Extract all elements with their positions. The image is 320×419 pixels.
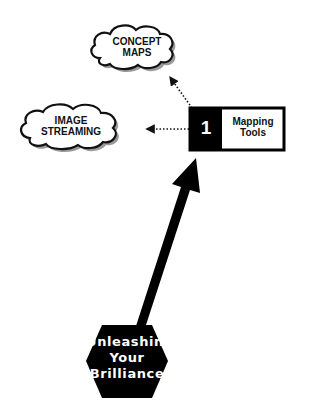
image-streaming-line-2: STREAMING	[30, 127, 112, 138]
connector-to-concept-maps	[172, 80, 192, 108]
central-line-2: Your	[86, 350, 168, 366]
main-arrow	[136, 158, 200, 328]
concept-maps-line-2: MAPS	[102, 48, 172, 59]
concept-maps-label: CONCEPT MAPS	[102, 37, 172, 59]
central-line-1: Unleashing	[86, 334, 168, 350]
tool-box-number: 1	[190, 117, 222, 139]
image-streaming-label: IMAGE STREAMING	[30, 116, 112, 138]
tool-box-label: Mapping Tools	[224, 117, 282, 139]
central-line-3: Brilliance	[86, 366, 168, 382]
central-node-label: Unleashing Your Brilliance	[86, 334, 168, 382]
tool-box-line-2: Tools	[224, 128, 282, 139]
